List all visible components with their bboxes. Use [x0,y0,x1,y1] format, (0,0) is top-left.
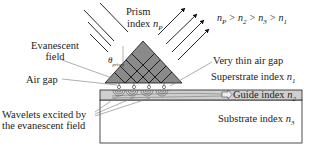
index-relation: nP > n2 > n3 > n1 [217,12,287,28]
superstrate-label: Superstrate index n1 [211,71,296,87]
prism-label: Prism [126,6,151,17]
wavelets-label: Wavelets excited bythe evanescent field [2,109,86,131]
reflected-beams [158,8,209,60]
guide-label: Guide index n2 [233,89,296,105]
theta-label: θprism [108,55,124,70]
evanescent-field-label: Evanescentfield [24,40,86,62]
prism-index-label: index nP [127,18,162,34]
substrate-label: Substrate index n3 [218,113,294,129]
air-gap-label: Air gap [26,74,58,85]
thin-air-gap-label: Very thin air gap [213,55,283,66]
coupling-points [117,83,165,89]
incident-beams [84,3,128,52]
